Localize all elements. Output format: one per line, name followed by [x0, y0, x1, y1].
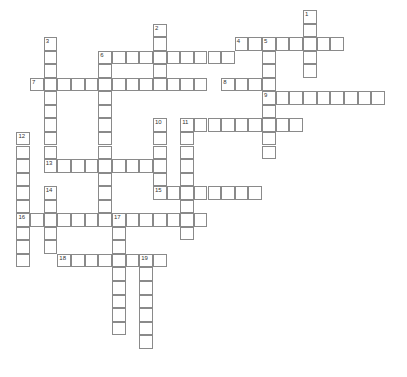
crossword-cell[interactable] [167, 186, 181, 200]
crossword-cell[interactable] [221, 186, 235, 200]
crossword-cell[interactable] [112, 308, 126, 322]
crossword-cell[interactable] [139, 281, 153, 295]
crossword-cell[interactable] [71, 78, 85, 92]
crossword-cell[interactable] [180, 146, 194, 160]
crossword-cell[interactable]: 14 [44, 186, 58, 200]
crossword-cell[interactable]: 3 [44, 37, 58, 51]
crossword-cell[interactable] [44, 146, 58, 160]
crossword-cell[interactable] [98, 64, 112, 78]
crossword-cell[interactable] [180, 78, 194, 92]
crossword-cell[interactable] [16, 254, 30, 268]
crossword-cell[interactable] [262, 78, 276, 92]
crossword-cell[interactable] [248, 186, 262, 200]
crossword-cell[interactable] [139, 322, 153, 336]
crossword-cell[interactable] [180, 132, 194, 146]
crossword-cell[interactable] [16, 159, 30, 173]
crossword-cell[interactable]: 9 [262, 91, 276, 105]
crossword-cell[interactable]: 4 [235, 37, 249, 51]
crossword-cell[interactable]: 12 [16, 132, 30, 146]
crossword-cell[interactable] [112, 295, 126, 309]
crossword-cell[interactable] [289, 91, 303, 105]
crossword-cell[interactable]: 1 [303, 10, 317, 24]
crossword-cell[interactable] [276, 37, 290, 51]
crossword-cell[interactable] [98, 105, 112, 119]
crossword-cell[interactable] [180, 227, 194, 241]
crossword-cell[interactable] [98, 186, 112, 200]
crossword-cell[interactable] [16, 200, 30, 214]
crossword-cell[interactable] [289, 118, 303, 132]
crossword-cell[interactable]: 7 [30, 78, 44, 92]
crossword-cell[interactable] [98, 78, 112, 92]
crossword-cell[interactable] [126, 254, 140, 268]
crossword-cell[interactable] [358, 91, 372, 105]
crossword-cell[interactable] [153, 132, 167, 146]
crossword-cell[interactable] [71, 159, 85, 173]
crossword-cell[interactable] [194, 51, 208, 65]
crossword-cell[interactable] [194, 118, 208, 132]
crossword-cell[interactable] [44, 118, 58, 132]
crossword-cell[interactable]: 16 [16, 213, 30, 227]
crossword-cell[interactable]: 17 [112, 213, 126, 227]
crossword-cell[interactable] [98, 213, 112, 227]
crossword-cell[interactable] [167, 78, 181, 92]
crossword-cell[interactable] [57, 213, 71, 227]
crossword-cell[interactable]: 2 [153, 24, 167, 38]
crossword-cell[interactable] [112, 240, 126, 254]
crossword-cell[interactable] [180, 51, 194, 65]
crossword-cell[interactable] [85, 78, 99, 92]
crossword-cell[interactable] [139, 78, 153, 92]
crossword-cell[interactable] [126, 213, 140, 227]
crossword-cell[interactable] [98, 200, 112, 214]
crossword-cell[interactable] [153, 173, 167, 187]
crossword-cell[interactable] [153, 78, 167, 92]
crossword-cell[interactable]: 10 [153, 118, 167, 132]
crossword-cell[interactable] [194, 186, 208, 200]
crossword-cell[interactable] [153, 37, 167, 51]
crossword-cell[interactable] [235, 186, 249, 200]
crossword-cell[interactable]: 18 [57, 254, 71, 268]
crossword-cell[interactable] [98, 118, 112, 132]
crossword-cell[interactable] [44, 132, 58, 146]
crossword-cell[interactable] [289, 37, 303, 51]
crossword-cell[interactable] [16, 240, 30, 254]
crossword-cell[interactable] [44, 240, 58, 254]
crossword-cell[interactable] [98, 254, 112, 268]
crossword-cell[interactable] [44, 200, 58, 214]
crossword-cell[interactable] [194, 78, 208, 92]
crossword-cell[interactable] [153, 254, 167, 268]
crossword-cell[interactable] [85, 254, 99, 268]
crossword-cell[interactable] [248, 78, 262, 92]
crossword-cell[interactable] [153, 146, 167, 160]
crossword-cell[interactable]: 13 [44, 159, 58, 173]
crossword-cell[interactable] [276, 118, 290, 132]
crossword-cell[interactable] [262, 105, 276, 119]
crossword-cell[interactable] [180, 186, 194, 200]
crossword-cell[interactable] [98, 146, 112, 160]
crossword-cell[interactable] [153, 159, 167, 173]
crossword-cell[interactable] [85, 159, 99, 173]
crossword-cell[interactable] [235, 118, 249, 132]
crossword-cell[interactable]: 15 [153, 186, 167, 200]
crossword-cell[interactable] [317, 37, 331, 51]
crossword-cell[interactable] [112, 51, 126, 65]
crossword-cell[interactable] [153, 213, 167, 227]
crossword-cell[interactable] [344, 91, 358, 105]
crossword-cell[interactable] [303, 37, 317, 51]
crossword-cell[interactable] [44, 78, 58, 92]
crossword-cell[interactable] [180, 159, 194, 173]
crossword-cell[interactable] [371, 91, 385, 105]
crossword-cell[interactable] [180, 173, 194, 187]
crossword-cell[interactable] [262, 118, 276, 132]
crossword-cell[interactable] [71, 254, 85, 268]
crossword-cell[interactable] [303, 51, 317, 65]
crossword-cell[interactable] [44, 64, 58, 78]
crossword-cell[interactable] [44, 105, 58, 119]
crossword-cell[interactable] [330, 91, 344, 105]
crossword-cell[interactable] [303, 91, 317, 105]
crossword-cell[interactable] [126, 51, 140, 65]
crossword-cell[interactable] [16, 227, 30, 241]
crossword-cell[interactable]: 8 [221, 78, 235, 92]
crossword-cell[interactable] [16, 186, 30, 200]
crossword-cell[interactable] [262, 51, 276, 65]
crossword-cell[interactable] [153, 51, 167, 65]
